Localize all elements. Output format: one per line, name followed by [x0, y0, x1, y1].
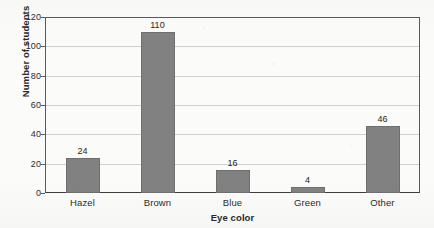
- x-axis-tick-label: Hazel: [70, 197, 95, 208]
- bar: [366, 126, 400, 193]
- x-axis-tick-label: Brown: [144, 197, 171, 208]
- y-axis-tick-label: 40: [15, 129, 41, 139]
- bar-value-label: 4: [305, 175, 310, 185]
- bar-group: 4: [270, 17, 345, 193]
- bar-value-label: 24: [77, 146, 87, 156]
- y-axis-tick-label: 20: [15, 159, 41, 169]
- bar-value-label: 46: [377, 114, 387, 124]
- x-axis-tick-label: Other: [370, 197, 394, 208]
- y-axis-tick-label: 120: [15, 12, 41, 22]
- x-axis-tick-labels: HazelBrownBlueGreenOther: [45, 197, 420, 211]
- bar-value-label: 16: [227, 158, 237, 168]
- x-axis-tick-label: Blue: [223, 197, 242, 208]
- x-axis-tick-label: Green: [294, 197, 321, 208]
- y-axis-tick-label: 80: [15, 71, 41, 81]
- bar-group: 46: [345, 17, 420, 193]
- bar: [216, 170, 250, 193]
- bar: [141, 32, 175, 193]
- y-axis-tick-label: 100: [15, 41, 41, 51]
- y-axis-tick-mark: [41, 193, 45, 194]
- bars-layer: 2411016446: [45, 17, 420, 193]
- y-axis-tick-label: 0: [15, 188, 41, 198]
- bar: [291, 187, 325, 193]
- y-axis-tick-label: 60: [15, 100, 41, 110]
- bar-chart-figure: Number of students 020406080100120 24110…: [0, 0, 434, 228]
- bar-value-label: 110: [150, 20, 165, 30]
- bar-group: 16: [195, 17, 270, 193]
- bar-group: 110: [120, 17, 195, 193]
- bar-group: 24: [45, 17, 120, 193]
- x-axis-title: Eye color: [45, 212, 420, 223]
- y-axis-tick-labels: 020406080100120: [14, 0, 41, 228]
- bar: [66, 158, 100, 193]
